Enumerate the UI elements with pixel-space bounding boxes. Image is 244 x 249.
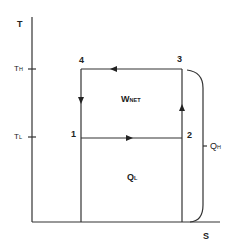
qh-main: Q — [210, 141, 217, 151]
state-1-label: 1 — [71, 130, 76, 139]
wnet-sub: NET — [130, 97, 141, 103]
ql-label: QL — [127, 173, 137, 182]
qh-bracket — [187, 70, 203, 222]
th-label: TH — [14, 65, 23, 73]
arrow-left-icon — [110, 66, 117, 72]
arrow-up-icon — [179, 104, 185, 111]
t-axis-label: T — [17, 20, 23, 29]
qh-sub: H — [217, 144, 221, 150]
th-sub: H — [19, 66, 23, 72]
state-3-label: 3 — [177, 55, 182, 64]
state-2-label: 2 — [187, 131, 192, 140]
arrow-right-icon — [126, 135, 133, 141]
wnet-main: W — [121, 94, 130, 104]
tl-label: TL — [14, 133, 22, 141]
tl-sub: L — [19, 134, 22, 140]
wnet-label: WNET — [121, 95, 141, 104]
ts-diagram-canvas — [0, 0, 244, 249]
state-4-label: 4 — [79, 56, 84, 65]
ql-sub: L — [134, 175, 137, 181]
s-axis-label: S — [203, 232, 209, 241]
ql-main: Q — [127, 172, 134, 182]
qh-label: QH — [210, 142, 221, 151]
arrow-down-icon — [78, 97, 84, 104]
